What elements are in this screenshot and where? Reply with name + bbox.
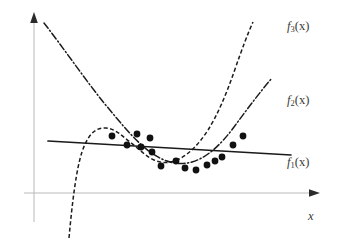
data-point	[193, 167, 200, 174]
curve-f3-path	[69, 22, 253, 238]
f1-arg: (x)	[295, 155, 310, 169]
data-point	[173, 158, 180, 165]
data-point	[134, 131, 141, 138]
curve-f1-path	[48, 141, 291, 155]
data-point	[204, 162, 211, 169]
data-point	[240, 133, 247, 140]
regression-plot: f3(x) f2(x) f1(x) x	[0, 0, 346, 241]
curve-label-f1: f1(x)	[287, 155, 309, 170]
y-axis-arrow-icon	[30, 12, 38, 23]
data-point	[230, 142, 237, 149]
x-axis-arrow-icon	[309, 189, 320, 197]
curve-label-f2: f2(x)	[287, 93, 309, 108]
data-point	[149, 149, 156, 156]
f3-arg: (x)	[295, 19, 310, 33]
data-point	[109, 133, 116, 140]
data-point	[219, 154, 226, 161]
figure-container: f3(x) f2(x) f1(x) x	[0, 0, 346, 241]
data-point	[158, 163, 165, 170]
f2-arg: (x)	[295, 93, 310, 107]
data-point	[147, 135, 154, 142]
data-point	[124, 142, 131, 149]
data-point	[212, 158, 219, 165]
curve-label-f3: f3(x)	[287, 19, 309, 34]
data-point	[182, 165, 189, 172]
x-axis-label: x	[307, 209, 314, 223]
data-point	[138, 144, 145, 151]
